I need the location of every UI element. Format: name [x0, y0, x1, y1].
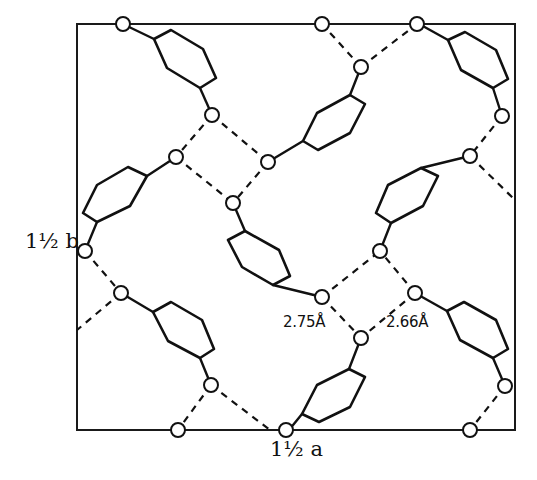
benzene-rings [83, 30, 508, 422]
hydrogen-bond [470, 156, 515, 200]
oxygen-atom [114, 286, 128, 300]
hydrogen-bond [322, 297, 361, 338]
oxygen-atom [204, 378, 218, 392]
oxygen-atom [495, 109, 509, 123]
oxygen-atom [171, 423, 185, 437]
hydrogen-bond [380, 251, 415, 293]
oxygen-atoms [78, 17, 512, 437]
oxygen-atom [410, 17, 424, 31]
benzene-ring [154, 30, 216, 88]
oxygen-atom [116, 17, 130, 31]
oxygen-atom [205, 108, 219, 122]
covalent-bond [421, 25, 448, 40]
distance-label: 2.75Å [283, 313, 325, 331]
axis-b-label: 1½ b [25, 229, 79, 253]
hydrogen-bond [178, 385, 211, 430]
axis-a-label: 1½ a [270, 437, 323, 461]
benzene-ring [303, 95, 365, 150]
hydrogen-bond [85, 251, 121, 293]
oxygen-atom [354, 331, 368, 345]
unit-cell-frame [77, 24, 515, 430]
oxygen-atom [408, 286, 422, 300]
hydrogen-bond [470, 386, 505, 430]
hydrogen-bond [322, 24, 361, 67]
hydrogen-bond [211, 385, 270, 430]
benzene-ring [83, 167, 147, 222]
hydrogen-bond [176, 157, 233, 203]
hydrogen-bond [77, 293, 121, 330]
benzene-ring [228, 231, 290, 285]
covalent-bond [127, 26, 154, 39]
distance-label: 2.66Å [386, 313, 428, 331]
oxygen-atom [279, 423, 293, 437]
oxygen-atom [226, 196, 240, 210]
oxygen-atom [315, 290, 329, 304]
oxygen-atom [463, 423, 477, 437]
hydrogen-bond [361, 24, 417, 67]
oxygen-atom [78, 244, 92, 258]
oxygen-atom [498, 379, 512, 393]
hydrogen-bond [233, 162, 268, 203]
oxygen-atom [315, 17, 329, 31]
hydrogen-bond [212, 115, 268, 162]
benzene-ring [153, 302, 214, 358]
oxygen-atom [354, 60, 368, 74]
oxygen-atom [373, 244, 387, 258]
oxygen-atom [261, 155, 275, 169]
benzene-ring [376, 168, 438, 223]
benzene-ring [447, 302, 508, 358]
crystal-packing-diagram [0, 0, 537, 480]
oxygen-atom [169, 150, 183, 164]
hydrogen-bond [176, 115, 212, 157]
oxygen-atom [463, 149, 477, 163]
hydrogen-bonds [77, 24, 515, 430]
covalent-bonds [85, 25, 505, 430]
benzene-ring [448, 32, 508, 88]
hydrogen-bond [322, 251, 380, 297]
benzene-ring [302, 369, 365, 422]
